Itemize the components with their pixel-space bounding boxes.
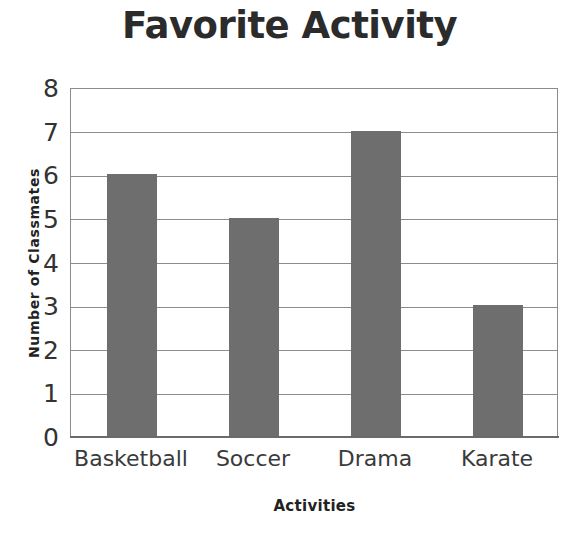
y-tick-label: 7 [12, 119, 70, 144]
x-tick-label: Basketball [70, 446, 192, 471]
chart-title: Favorite Activity [0, 4, 579, 47]
bar [473, 305, 523, 436]
x-axis-tick-labels: BasketballSoccerDramaKarate [70, 446, 559, 480]
x-axis-title: Activities [70, 497, 559, 515]
bar [351, 131, 401, 436]
y-tick-label: 5 [12, 206, 70, 231]
y-tick-label: 8 [12, 76, 70, 101]
y-tick-label: 3 [12, 294, 70, 319]
plot-area [70, 88, 558, 437]
y-tick-label: 4 [12, 250, 70, 275]
bar [107, 174, 157, 436]
bar-series [71, 89, 557, 436]
x-tick-label: Drama [314, 446, 436, 471]
x-tick-label: Karate [436, 446, 558, 471]
x-tick-label: Soccer [192, 446, 314, 471]
y-tick-label: 6 [12, 163, 70, 188]
x-axis-line [70, 436, 559, 438]
y-tick-label: 0 [12, 425, 70, 450]
y-tick-label: 1 [12, 381, 70, 406]
bar-chart: Favorite Activity Number of Classmates 8… [0, 0, 579, 539]
bar [229, 218, 279, 436]
y-tick-label: 2 [12, 337, 70, 362]
y-axis-tick-labels: 876543210 [0, 0, 70, 539]
